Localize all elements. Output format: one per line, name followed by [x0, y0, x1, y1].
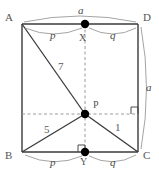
point-label-X: X: [79, 33, 86, 43]
segment-length-label-PC: 1: [115, 122, 121, 133]
segments-from-P: [22, 24, 138, 152]
vertex-label-D: D: [143, 12, 151, 23]
side-length-label-top-a: a: [78, 5, 84, 16]
geometry-figure: A D B C X P Y 7 5 1 a a p q p q: [0, 0, 159, 171]
point-label-Y: Y: [80, 157, 87, 167]
point-dot-P: [81, 110, 89, 118]
segment-length-label-AP: 7: [58, 61, 64, 72]
arc-top-a: [24, 16, 136, 22]
vertex-label-B: B: [5, 150, 12, 161]
partition-label-bottom-p: p: [50, 157, 56, 168]
partition-label-top-p: p: [50, 30, 56, 41]
point-dot-X: [81, 20, 89, 28]
point-label-P: P: [93, 100, 99, 110]
segment-length-label-BP: 5: [44, 124, 50, 135]
segment-BP: [22, 114, 85, 152]
point-dot-Y: [81, 148, 89, 156]
vertex-label-C: C: [143, 150, 150, 161]
vertex-label-A: A: [5, 12, 13, 23]
segment-PC: [85, 114, 138, 152]
side-length-label-right-a: a: [146, 82, 152, 93]
partition-label-top-q: q: [110, 30, 116, 41]
square-outline: [22, 24, 138, 152]
figure-canvas: [0, 0, 159, 171]
partition-label-bottom-q: q: [110, 157, 116, 168]
construction-lines: [22, 24, 138, 152]
right-angle-marker-at-DC: [131, 107, 138, 114]
